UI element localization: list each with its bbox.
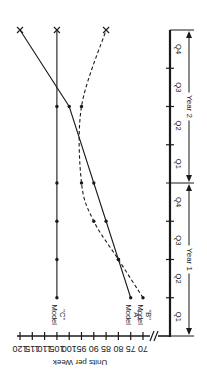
svg-text:75: 75	[126, 344, 136, 354]
axes	[17, 30, 194, 341]
data-point	[55, 220, 58, 223]
data-point	[55, 105, 58, 108]
data-point	[55, 181, 58, 184]
data-point	[68, 105, 71, 108]
svg-text:Q3: Q3	[174, 82, 183, 92]
data-point	[55, 296, 58, 299]
data-point	[80, 105, 83, 108]
svg-text:Year 1: Year 1	[185, 248, 194, 271]
svg-text:Q4: Q4	[174, 44, 183, 54]
data-point	[141, 296, 144, 299]
svg-text:115: 115	[25, 344, 39, 354]
data-point	[104, 220, 107, 223]
svg-text:Model: Model	[50, 305, 59, 326]
svg-text:Year 2: Year 2	[185, 95, 194, 118]
svg-text:"B": "B"	[144, 310, 153, 321]
data-point	[117, 258, 120, 261]
svg-text:Q4: Q4	[174, 197, 183, 207]
svg-text:80: 80	[113, 344, 123, 354]
svg-text:Q3: Q3	[174, 235, 183, 245]
svg-text:85: 85	[101, 344, 111, 354]
svg-text:Q1: Q1	[174, 312, 183, 322]
units-per-week-chart: 120115110105100959085807570Units per Wee…	[0, 0, 207, 389]
svg-text:100: 100	[62, 344, 77, 354]
svg-text:Units per Week: Units per Week	[52, 358, 108, 367]
svg-text:"C": "C"	[58, 309, 67, 320]
data-point	[55, 258, 58, 261]
data-point	[80, 181, 83, 184]
series-lines	[17, 27, 145, 299]
svg-text:Model: Model	[136, 305, 145, 326]
end-x-marker	[103, 27, 109, 33]
svg-text:Q1: Q1	[174, 159, 183, 169]
svg-text:Q2: Q2	[174, 121, 183, 131]
series-line-0	[20, 30, 131, 298]
svg-text:Q2: Q2	[174, 274, 183, 284]
svg-text:Model: Model	[124, 305, 133, 326]
svg-text:70: 70	[138, 344, 148, 354]
data-point	[92, 181, 95, 184]
data-point	[129, 296, 132, 299]
end-x-marker	[17, 27, 23, 33]
labels: 120115110105100959085807570Units per Wee…	[12, 44, 193, 367]
svg-text:95: 95	[76, 344, 86, 354]
svg-text:90: 90	[89, 344, 99, 354]
data-point	[92, 220, 95, 223]
series-line-1	[79, 30, 143, 298]
